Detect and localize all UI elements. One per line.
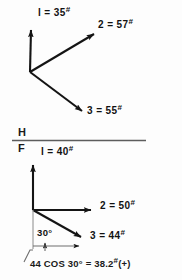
figure-sheet: l = 35# 2 = 57# 3 = 55# H F l = 40# 2 = … — [0, 0, 182, 280]
top-vector-3-label: 3 = 55# — [87, 106, 122, 116]
top-vector-1-arrow — [30, 30, 31, 72]
caption-text: 44 COS 30° = 38.2 — [30, 258, 114, 269]
bottom-vector-3-label-text: 3 = 44 — [90, 230, 120, 241]
top-vector-1-label: l = 35# — [38, 8, 71, 18]
bottom-vector-3-unit: # — [120, 228, 125, 237]
top-vector-2-unit: # — [128, 17, 133, 26]
projection-calculation-caption: 44 COS 30° = 38.2#(+) — [30, 258, 131, 269]
top-vector-1-unit: # — [66, 5, 71, 14]
top-vector-2-arrow — [30, 34, 94, 72]
top-vector-3-label-text: 3 = 55 — [87, 105, 117, 116]
bottom-vector-1-label: l = 40# — [41, 147, 74, 157]
bottom-diagram-group — [24, 165, 91, 262]
top-diagram-group — [30, 30, 94, 111]
divider-upper-label-h: H — [18, 126, 26, 138]
bottom-vector-2-label-text: 2 = 50 — [100, 200, 130, 211]
caption-sign: (+) — [118, 258, 130, 269]
divider-lower-label-f: F — [18, 142, 25, 154]
bottom-vector-2-unit: # — [130, 198, 135, 207]
top-vector-2-label: 2 = 57# — [98, 20, 133, 30]
top-vector-2-label-text: 2 = 57 — [98, 19, 128, 30]
bottom-vector-1-label-text: l = 40 — [41, 146, 69, 157]
top-vector-3-unit: # — [117, 103, 122, 112]
bottom-vector-1-unit: # — [69, 144, 74, 153]
bottom-vector-3-label: 3 = 44# — [90, 231, 125, 241]
top-vector-1-label-text: l = 35 — [38, 7, 66, 18]
bottom-vector-2-label: 2 = 50# — [100, 201, 135, 211]
angle-30-degrees-label: 30° — [37, 228, 53, 238]
top-vector-3-arrow — [30, 72, 82, 111]
